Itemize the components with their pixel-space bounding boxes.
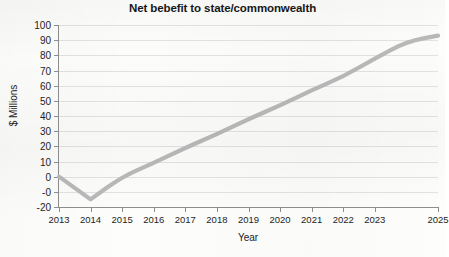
x-tick-mark <box>249 207 250 212</box>
x-tick-label: 2015 <box>112 214 133 225</box>
y-tick-label: 10 <box>40 156 51 167</box>
x-tick-mark <box>280 207 281 212</box>
x-tick-label: 2017 <box>175 214 196 225</box>
y-tick-label: 30 <box>40 126 51 137</box>
y-tick-label: -0 <box>42 186 51 197</box>
y-tick-label: 70 <box>40 65 51 76</box>
y-tick-label: 40 <box>40 111 51 122</box>
x-tick-label: 2022 <box>333 214 354 225</box>
x-tick-mark <box>343 207 344 212</box>
x-tick-label: 2021 <box>301 214 322 225</box>
x-tick-label: 2013 <box>48 214 69 225</box>
y-tick-label: 90 <box>40 35 51 46</box>
x-tick-mark <box>312 207 313 212</box>
chart-title: Net bebefit to state/commonwealth <box>0 2 445 14</box>
x-tick-mark <box>122 207 123 212</box>
y-tick-label: 20 <box>40 141 51 152</box>
y-axis-title: $ Millions <box>8 66 19 146</box>
x-tick-label: 2019 <box>238 214 259 225</box>
plot-area: 1009080706050403020100-0-20 201320142015… <box>58 25 438 208</box>
y-tick-label: 80 <box>40 50 51 61</box>
x-tick-mark <box>375 207 376 212</box>
y-tick-label: -20 <box>37 202 51 213</box>
y-tick-label: 60 <box>40 80 51 91</box>
x-tick-label: 2025 <box>427 214 448 225</box>
x-tick-label: 2018 <box>206 214 227 225</box>
y-tick-label: 100 <box>34 20 51 31</box>
x-tick-label: 2014 <box>80 214 101 225</box>
y-tick-label: 50 <box>40 95 51 106</box>
x-tick-mark <box>438 207 439 212</box>
x-tick-mark <box>154 207 155 212</box>
y-tick-label: 0 <box>45 171 51 182</box>
x-tick-mark <box>217 207 218 212</box>
data-line-net-benefit <box>59 36 438 200</box>
x-tick-label: 2016 <box>143 214 164 225</box>
x-axis-title: Year <box>58 232 438 243</box>
x-tick-mark <box>185 207 186 212</box>
x-tick-mark <box>59 207 60 212</box>
data-series-layer <box>59 25 438 207</box>
x-tick-mark <box>91 207 92 212</box>
x-tick-label: 2020 <box>270 214 291 225</box>
x-tick-label: 2023 <box>364 214 385 225</box>
